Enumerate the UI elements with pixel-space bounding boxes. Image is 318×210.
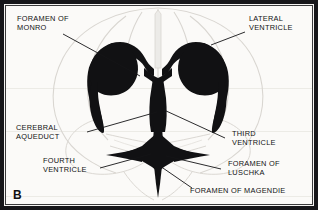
label-fourth-ventricle: FOURTH VENTRICLE [43,157,87,174]
label-lateral-ventricle: LATERAL VENTRICLE [249,15,293,32]
foramen-of-magendie [154,166,162,198]
septum-ghost [155,10,161,68]
leader-foramen-of-luschka [166,156,221,169]
label-foramen-of-magendie: FORAMEN OF MAGENDIE [190,187,286,196]
figure-panel-b: FORAMEN OF MONRO LATERAL VENTRICLE CEREB… [0,0,318,210]
label-third-ventricle: THIRD VENTRICLE [232,130,276,147]
leader-foramen-of-magendie [160,166,192,188]
label-foramen-of-luschka: FORAMEN OF LUSCHKA [228,160,280,177]
leader-lateral-ventricle [211,32,245,45]
label-cerebral-aqueduct: CEREBRAL AQUEDUCT [16,124,59,141]
panel-label-b: B [13,188,22,202]
third-ventricle [149,78,166,132]
label-foramen-of-monro: FORAMEN OF MONRO [17,15,69,32]
